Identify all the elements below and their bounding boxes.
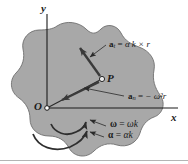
- alpha-symbol: α: [108, 130, 113, 140]
- figure-container: y x O P at = α k × r an = − ω²r ω = ωk α…: [0, 0, 188, 164]
- at-expression: α k × r: [125, 39, 150, 49]
- point-p-label: P: [107, 73, 114, 84]
- angular-velocity-label: ω = ωk: [110, 120, 138, 130]
- origin-dot: [45, 106, 50, 111]
- y-axis-label: y: [41, 3, 46, 14]
- omega-symbol: ω: [110, 119, 117, 129]
- at-equals: =: [118, 39, 123, 49]
- omega-expression: ωk: [127, 119, 138, 129]
- an-subscript: n: [133, 94, 136, 101]
- angular-acceleration-label: α = αk: [108, 131, 133, 141]
- an-expression: − ω²r: [145, 91, 166, 101]
- tangential-acceleration-label: at = α k × r: [109, 40, 150, 50]
- alpha-expression: αk: [123, 130, 132, 140]
- an-equals: =: [138, 91, 143, 101]
- alpha-equals: =: [116, 130, 121, 140]
- normal-acceleration-label: an = − ω²r: [128, 92, 166, 102]
- origin-label: O: [34, 101, 42, 112]
- omega-equals: =: [119, 119, 124, 129]
- x-axis-label: x: [171, 112, 177, 123]
- at-subscript: t: [114, 42, 116, 49]
- rigid-body-diagram: [0, 0, 188, 164]
- point-p-dot: [99, 76, 104, 81]
- bottom-divider: [0, 160, 188, 161]
